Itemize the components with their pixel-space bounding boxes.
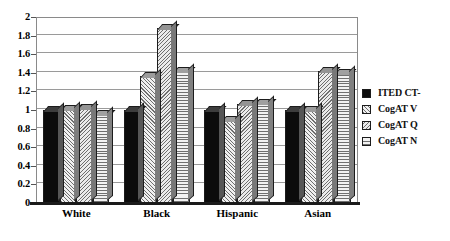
x-category-label-hispanic: Hispanic xyxy=(197,207,278,219)
bar-group-asian xyxy=(278,17,359,203)
bar-side-face xyxy=(332,64,338,201)
bar-side-face xyxy=(155,68,161,201)
gridline xyxy=(37,15,357,16)
bar-group-white xyxy=(36,17,117,203)
y-tick-label: 0.6 xyxy=(0,142,30,153)
bar-black-itedct xyxy=(124,110,141,203)
bar-side-face xyxy=(74,102,80,201)
bar-side-face xyxy=(171,21,177,201)
bar-side-face xyxy=(252,96,258,201)
bar-side-face xyxy=(219,103,225,201)
legend-item-cogatq[interactable]: CogAT Q xyxy=(362,117,448,133)
legend-swatch-icon xyxy=(362,137,371,146)
bar-hispanic-itedct xyxy=(204,110,221,203)
y-tick-label: 0 xyxy=(0,198,30,209)
legend-item-itedct[interactable]: ITED CT- xyxy=(362,85,448,101)
x-category-label-black: Black xyxy=(117,207,198,219)
y-tick-label: 2 xyxy=(0,12,30,23)
bar-side-face xyxy=(58,103,64,201)
legend-item-cogatn[interactable]: CogAT N xyxy=(362,133,448,149)
legend-item-label: CogAT N xyxy=(378,136,417,146)
x-axis: WhiteBlackHispanicAsian xyxy=(36,207,358,227)
legend-swatch-icon xyxy=(362,121,371,130)
bar-side-face xyxy=(235,113,241,201)
y-tick-label: 0.8 xyxy=(0,123,30,134)
bar-chart: 00.20.40.60.811.21.41.61.82 WhiteBlackHi… xyxy=(0,0,450,241)
y-tick-label: 1.8 xyxy=(0,30,30,41)
bar-asian-itedct xyxy=(285,110,302,203)
bar-side-face xyxy=(138,103,144,201)
bar-side-face xyxy=(188,64,194,201)
y-tick-label: 1 xyxy=(0,105,30,116)
legend-item-label: CogAT Q xyxy=(378,120,418,130)
bar-side-face xyxy=(91,101,97,201)
chart-legend: ITED CT-CogAT VCogAT QCogAT N xyxy=(362,85,448,149)
x-category-label-asian: Asian xyxy=(278,207,359,219)
y-tick-label: 1.6 xyxy=(0,49,30,60)
legend-swatch-icon xyxy=(362,105,371,114)
bar-side-face xyxy=(299,103,305,201)
y-tick-label: 0.4 xyxy=(0,161,30,172)
bars-layer xyxy=(36,17,358,203)
legend-item-label: ITED CT- xyxy=(378,88,420,98)
legend-swatch-icon xyxy=(362,89,371,98)
x-category-label-white: White xyxy=(36,207,117,219)
legend-item-label: CogAT V xyxy=(378,104,417,114)
legend-item-cogatv[interactable]: CogAT V xyxy=(362,101,448,117)
bar-group-black xyxy=(117,17,198,203)
y-axis: 00.20.40.60.811.21.41.61.82 xyxy=(0,17,30,203)
bar-group-hispanic xyxy=(197,17,278,203)
bar-white-itedct xyxy=(43,110,60,203)
bar-side-face xyxy=(349,65,355,201)
y-tick-label: 1.2 xyxy=(0,86,30,97)
y-tick-label: 0.2 xyxy=(0,179,30,190)
bar-side-face xyxy=(107,106,113,201)
bar-side-face xyxy=(268,95,274,201)
y-tick-label: 1.4 xyxy=(0,68,30,79)
bar-side-face xyxy=(316,103,322,201)
